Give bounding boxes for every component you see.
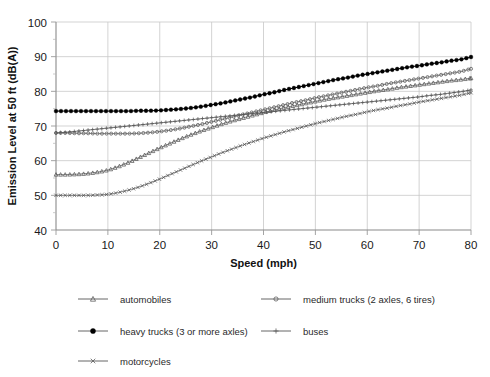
legend-label: automobiles [120,294,171,305]
data-point-filled-circle [214,102,218,106]
data-point-filled-circle [321,80,325,84]
data-point-filled-circle [199,105,203,109]
data-point-filled-circle [209,103,213,107]
data-point-filled-circle [69,109,73,113]
x-tick-label: 30 [205,239,218,251]
data-point-filled-circle [287,87,291,91]
data-point-filled-circle [331,78,335,82]
data-point-filled-circle [346,76,350,80]
legend-label: buses [303,326,329,337]
x-tick-label: 60 [361,239,374,251]
x-tick-label: 50 [309,239,322,251]
data-point-filled-circle [351,75,355,79]
data-point-filled-circle [420,63,424,67]
x-tick-label: 10 [101,239,114,251]
data-point-filled-circle [154,109,158,113]
data-point-filled-circle [194,105,198,109]
data-point-filled-circle [312,82,316,86]
data-point-filled-circle [114,109,118,113]
data-point-filled-circle [435,61,439,65]
chart-canvas: 40506070809010001020304050607080Speed (m… [0,0,490,377]
x-tick-label: 80 [465,239,478,251]
data-point-filled-circle [79,109,83,113]
data-point-filled-circle [445,60,449,64]
legend-item-buses[interactable]: buses [261,326,329,337]
data-point-filled-circle [390,68,394,72]
data-point-filled-circle [238,98,242,102]
data-point-filled-circle [139,109,143,113]
legend-item-heavy-trucks-3-or-more-axles[interactable]: heavy trucks (3 or more axles) [78,326,248,337]
data-point-filled-circle [376,70,380,74]
data-point-filled-circle [450,59,454,63]
data-point-filled-circle [297,85,301,89]
data-point-filled-circle [272,90,276,94]
legend-label: motorcycles [120,356,171,367]
x-tick-label: 40 [257,239,270,251]
y-axis: 405060708090100 [28,17,56,237]
data-point-filled-circle [410,65,414,69]
data-point-filled-circle [460,57,464,61]
data-point-filled-circle [385,69,389,73]
data-point-filled-circle [94,109,98,113]
data-point-filled-circle [90,328,95,333]
data-point-filled-circle [415,64,419,68]
data-point-filled-circle [292,86,296,90]
data-point-filled-circle [440,60,444,64]
legend-item-automobiles[interactable]: automobiles [78,294,171,305]
data-point-filled-circle [361,73,365,77]
data-point-filled-circle [134,109,138,113]
y-tick-label: 50 [34,190,47,202]
data-point-filled-circle [455,58,459,62]
emission-level-vs-speed-chart: 40506070809010001020304050607080Speed (m… [0,0,490,377]
data-point-filled-circle [356,74,360,78]
data-point-filled-circle [263,92,267,96]
data-point-filled-circle [277,89,281,93]
data-point-filled-circle [326,79,330,83]
y-tick-label: 100 [28,17,47,29]
data-point-filled-circle [109,109,113,113]
legend-item-motorcycles[interactable]: motorcycles [78,356,171,367]
data-point-filled-circle [268,91,272,95]
legend-item-medium-trucks-2-axles-6-tires[interactable]: medium trucks (2 axles, 6 tires) [261,294,435,305]
data-point-filled-circle [184,107,188,111]
data-point-filled-circle [336,77,340,81]
data-point-filled-circle [380,70,384,74]
data-point-filled-circle [341,77,345,81]
data-point-filled-circle [144,109,148,113]
data-point-filled-circle [164,108,168,112]
data-point-filled-circle [54,109,58,113]
data-point-filled-circle [302,84,306,88]
legend-label: heavy trucks (3 or more axles) [120,326,248,337]
x-axis-title: Speed (mph) [230,257,297,269]
y-axis-title: Emission Level at 50 ft (dB(A)) [6,46,18,205]
data-point-filled-circle [243,97,247,101]
y-tick-label: 70 [34,121,47,133]
x-tick-label: 70 [413,239,426,251]
data-point-filled-circle [84,109,88,113]
data-point-filled-circle [149,109,153,113]
data-point-filled-circle [371,71,375,75]
data-point-filled-circle [189,106,193,110]
data-point-filled-circle [204,104,208,108]
data-point-filled-circle [129,109,133,113]
legend: automobilesmedium trucks (2 axles, 6 tir… [78,294,435,367]
data-point-filled-circle [59,109,63,113]
data-point-filled-circle [469,55,473,59]
x-axis: 01020304050607080 [53,230,478,251]
data-point-filled-circle [425,62,429,66]
data-point-filled-circle [464,56,468,60]
data-point-filled-circle [174,107,178,111]
data-point-filled-circle [258,93,262,97]
y-tick-label: 40 [34,225,47,237]
data-point-filled-circle [400,66,404,70]
data-point-filled-circle [405,65,409,69]
data-point-filled-circle [169,108,173,112]
data-point-filled-circle [253,95,257,99]
y-tick-label: 60 [34,155,47,167]
data-point-filled-circle [99,109,103,113]
data-point-filled-circle [119,109,123,113]
data-point-filled-circle [159,108,163,112]
data-point-filled-circle [228,100,232,104]
data-point-filled-circle [317,81,321,85]
data-point-filled-circle [224,101,228,105]
